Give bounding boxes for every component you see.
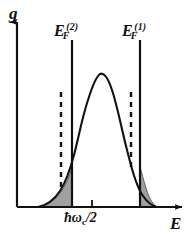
fermi-level-2-label: EF(2) bbox=[54, 22, 78, 41]
y-axis-label: g bbox=[9, 5, 18, 22]
fermi-level-2-superscript: (2) bbox=[66, 21, 78, 32]
omega-symbol: ω bbox=[72, 210, 82, 225]
left-tail-shaded-region bbox=[38, 167, 72, 208]
fermi-level-1-label: EF(1) bbox=[122, 22, 146, 41]
hbar-symbol: ħ bbox=[64, 210, 72, 225]
divisor-text: /2 bbox=[86, 210, 97, 225]
x-axis-label: E bbox=[170, 215, 181, 232]
figure-canvas bbox=[0, 0, 194, 243]
x-center-tick-label: ħωc/2 bbox=[64, 211, 97, 227]
fermi-level-1-superscript: (1) bbox=[134, 21, 146, 32]
density-of-states-figure: g E EF(2) EF(1) ħωc/2 bbox=[0, 0, 194, 243]
